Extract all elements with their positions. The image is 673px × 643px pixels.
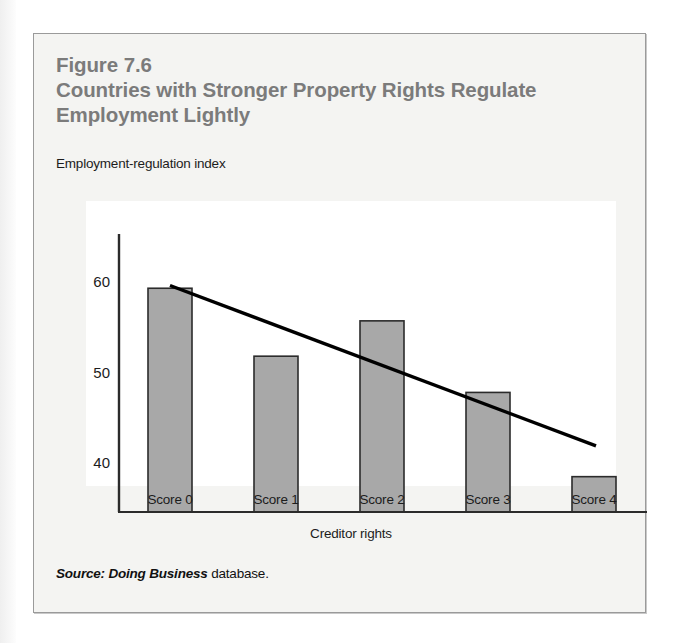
- y-tick-label-40: 40: [93, 454, 110, 471]
- source-note: Source: Doing Business database.: [56, 566, 269, 581]
- x-category-label-score-3: Score 3: [465, 492, 510, 507]
- page-gutter-shading: [0, 0, 16, 643]
- bar-series-group: [148, 288, 616, 512]
- x-category-label-score-2: Score 2: [359, 492, 404, 507]
- chart-plot-wrapper: 405060 Score 0Score 1Score 2Score 3Score…: [86, 201, 616, 486]
- page-canvas: Figure 7.6 Countries with Stronger Prope…: [0, 0, 673, 643]
- source-emphasis: Source: Doing Business: [56, 566, 208, 581]
- x-category-label-score-0: Score 0: [147, 492, 192, 507]
- x-category-label-score-4: Score 4: [571, 492, 616, 507]
- x-category-label-score-1: Score 1: [253, 492, 298, 507]
- source-rest: database.: [208, 566, 269, 581]
- x-axis-title: Creditor rights: [86, 526, 616, 541]
- figure-container: Figure 7.6 Countries with Stronger Prope…: [33, 33, 646, 613]
- bar-score-1: [254, 356, 298, 512]
- y-tick-label-60: 60: [93, 273, 110, 290]
- y-tick-label-50: 50: [93, 363, 110, 380]
- bar-score-0: [148, 288, 192, 512]
- bar-score-2: [360, 321, 404, 512]
